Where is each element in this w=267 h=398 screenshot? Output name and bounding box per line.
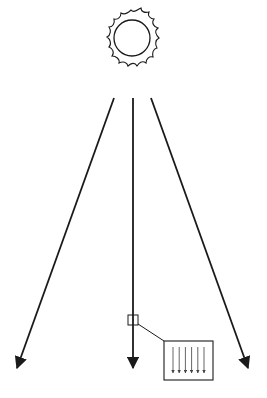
sun-icon [107,8,159,66]
inset-connector [138,324,164,341]
ray-right [151,98,248,368]
ray-left [17,98,114,368]
magnified-inset [164,341,213,380]
sun-rays-diagram [0,0,267,398]
sun-corona [107,8,159,66]
sun-disc [114,20,150,56]
inset-frame [164,341,213,380]
